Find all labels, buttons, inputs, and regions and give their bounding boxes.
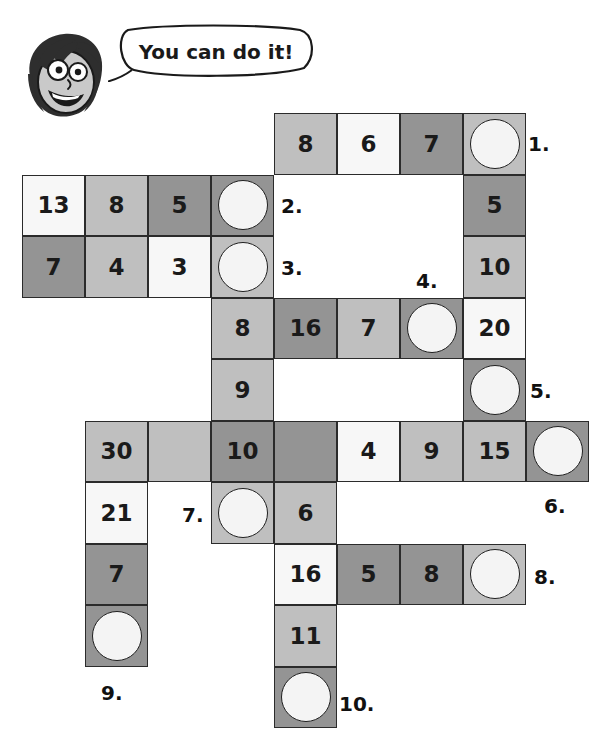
grid-number-cell: 11: [274, 605, 337, 667]
grid-number-cell: 6: [337, 113, 400, 175]
answer-circle[interactable]: [218, 180, 268, 230]
clue-number-label: 10.: [339, 692, 374, 716]
grid-number-cell: 7: [337, 298, 400, 360]
grid-number-cell: 9: [400, 421, 463, 483]
grid-answer-cell[interactable]: [211, 175, 274, 237]
grid-number-cell: 9: [211, 359, 274, 421]
grid-number-cell: 5: [148, 175, 211, 237]
grid-blank-cell: [148, 421, 211, 483]
grid-answer-cell[interactable]: [211, 482, 274, 544]
grid-number-cell: 16: [274, 544, 337, 606]
clue-number-label: 3.: [281, 256, 303, 280]
grid-number-cell: 7: [400, 113, 463, 175]
grid-answer-cell[interactable]: [274, 667, 337, 729]
grid-number-cell: 4: [85, 236, 148, 298]
number-crossword-grid: 867138557431081672093010491521671658111.…: [0, 0, 616, 751]
answer-circle[interactable]: [470, 549, 520, 599]
grid-number-cell: 8: [85, 175, 148, 237]
grid-number-cell: 5: [463, 175, 526, 237]
answer-circle[interactable]: [470, 365, 520, 415]
answer-circle[interactable]: [281, 672, 331, 722]
clue-number-label: 4.: [416, 269, 438, 293]
answer-circle[interactable]: [218, 488, 268, 538]
grid-number-cell: 16: [274, 298, 337, 360]
grid-number-cell: 30: [85, 421, 148, 483]
grid-answer-cell[interactable]: [463, 544, 526, 606]
grid-answer-cell[interactable]: [85, 605, 148, 667]
grid-number-cell: 13: [22, 175, 85, 237]
clue-number-label: 5.: [530, 379, 552, 403]
clue-number-label: 8.: [534, 565, 556, 589]
grid-number-cell: 5: [337, 544, 400, 606]
clue-number-label: 1.: [528, 132, 550, 156]
grid-number-cell: 10: [463, 236, 526, 298]
grid-number-cell: 21: [85, 482, 148, 544]
clue-number-label: 7.: [182, 503, 204, 527]
clue-number-label: 9.: [101, 681, 123, 705]
answer-circle[interactable]: [92, 611, 142, 661]
grid-answer-cell[interactable]: [526, 421, 589, 483]
grid-answer-cell[interactable]: [211, 236, 274, 298]
grid-number-cell: 6: [274, 482, 337, 544]
grid-number-cell: 4: [337, 421, 400, 483]
answer-circle[interactable]: [470, 119, 520, 169]
grid-number-cell: 8: [274, 113, 337, 175]
clue-number-label: 6.: [544, 494, 566, 518]
clue-number-label: 2.: [281, 194, 303, 218]
grid-number-cell: 7: [22, 236, 85, 298]
grid-number-cell: 7: [85, 544, 148, 606]
grid-number-cell: 3: [148, 236, 211, 298]
grid-answer-cell[interactable]: [400, 298, 463, 360]
answer-circle[interactable]: [218, 242, 268, 292]
grid-number-cell: 20: [463, 298, 526, 360]
grid-number-cell: 10: [211, 421, 274, 483]
answer-circle[interactable]: [407, 303, 457, 353]
grid-blank-cell: [274, 421, 337, 483]
grid-number-cell: 8: [400, 544, 463, 606]
grid-number-cell: 8: [211, 298, 274, 360]
grid-answer-cell[interactable]: [463, 359, 526, 421]
grid-answer-cell[interactable]: [463, 113, 526, 175]
answer-circle[interactable]: [533, 426, 583, 476]
grid-number-cell: 15: [463, 421, 526, 483]
